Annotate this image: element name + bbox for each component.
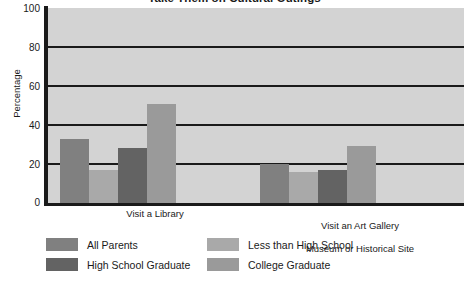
legend-swatch-high-school-graduate — [46, 258, 78, 271]
bar-less-than-high-school-group-2 — [289, 172, 318, 203]
x-axis-line — [44, 203, 464, 206]
y-tick-80: 80 — [0, 43, 40, 53]
legend-item-high-school-graduate: High School Graduate — [46, 258, 190, 271]
y-tick-40: 40 — [0, 121, 40, 131]
legend-label-high-school-graduate: High School Graduate — [87, 259, 190, 271]
legend-label-all-parents: All Parents — [87, 239, 138, 251]
legend-item-all-parents: All Parents — [46, 238, 138, 251]
x-group-label-library: Visit a Library — [75, 208, 235, 220]
gridline-40 — [48, 124, 464, 126]
bar-college-graduate-group-2 — [347, 146, 376, 203]
y-tick-0: 0 — [0, 198, 40, 208]
legend-item-college-graduate: College Graduate — [207, 258, 330, 271]
bar-less-than-high-school-group-1 — [89, 170, 118, 203]
chart-title: Take Them on Cultural Outings — [0, 0, 469, 4]
y-tick-20: 20 — [0, 160, 40, 170]
bar-all-parents-group-1 — [60, 139, 89, 203]
gridline-60 — [48, 85, 464, 87]
y-tick-100: 100 — [0, 4, 40, 14]
legend-label-college-graduate: College Graduate — [248, 259, 330, 271]
legend-label-less-than-high-school: Less than High School — [248, 239, 353, 251]
y-axis-line — [44, 6, 48, 205]
y-tick-60: 60 — [0, 82, 40, 92]
gridline-80 — [48, 46, 464, 48]
legend-swatch-less-than-high-school — [207, 238, 239, 251]
x-group-label-art-gallery-line1: Visit an Art Gallery — [321, 220, 399, 231]
legend-item-less-than-high-school: Less than High School — [207, 238, 353, 251]
bar-high-school-graduate-group-1 — [118, 148, 147, 203]
gridline-20 — [48, 163, 464, 165]
bar-high-school-graduate-group-2 — [318, 170, 347, 203]
bar-college-graduate-group-1 — [147, 104, 176, 203]
bar-all-parents-group-2 — [260, 164, 289, 203]
legend-swatch-all-parents — [46, 238, 78, 251]
bar-chart: Take Them on Cultural Outings Percentage… — [0, 0, 469, 281]
y-axis-tick-labels: 100 80 60 40 20 0 — [0, 0, 42, 281]
legend: All Parents High School Graduate Less th… — [46, 238, 456, 278]
plot-area — [48, 8, 464, 203]
legend-swatch-college-graduate — [207, 258, 239, 271]
